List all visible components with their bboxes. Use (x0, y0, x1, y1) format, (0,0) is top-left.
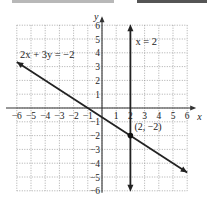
x-tick-label: −5 (26, 111, 36, 121)
y-tick-label: 2 (95, 76, 100, 86)
x-axis-arrow-icon (190, 106, 196, 111)
x-tick-label: −3 (54, 111, 64, 121)
y-tick-label: 1 (95, 90, 100, 100)
x-tick-label: −4 (40, 111, 50, 121)
x-tick-label: 5 (171, 111, 176, 121)
y-tick-label: −5 (90, 173, 100, 183)
x-tick-label: 4 (156, 111, 161, 121)
line1-label: 2x + 3y = −2 (20, 49, 75, 60)
intersection-point (128, 133, 134, 139)
y-axis-arrow-icon (100, 16, 105, 22)
x-tick-label: −2 (69, 111, 79, 121)
x-tick-label: 1 (114, 111, 119, 121)
y-tick-label: −4 (90, 159, 100, 169)
line2-label: x = 2 (135, 36, 157, 47)
x-tick-label: 6 (185, 111, 190, 121)
y-tick-label: 5 (95, 35, 100, 45)
y-tick-label: −2 (90, 131, 100, 141)
y-tick-label: 4 (95, 48, 100, 58)
x-tick-label: −6 (12, 111, 22, 121)
coordinate-plane: xy−6−5−4−3−2−1123456654321−1−2−3−4−5−62x… (0, 0, 207, 203)
y-tick-label: −6 (90, 186, 100, 196)
y-tick-label: 6 (95, 21, 100, 31)
x-tick-label: 3 (142, 111, 147, 121)
y-tick-label: 3 (95, 62, 100, 72)
y-tick-label: −3 (90, 145, 100, 155)
intersection-label: (2, −2) (134, 121, 161, 133)
x-axis-label: x (196, 111, 202, 122)
y-tick-label: −1 (90, 117, 100, 127)
